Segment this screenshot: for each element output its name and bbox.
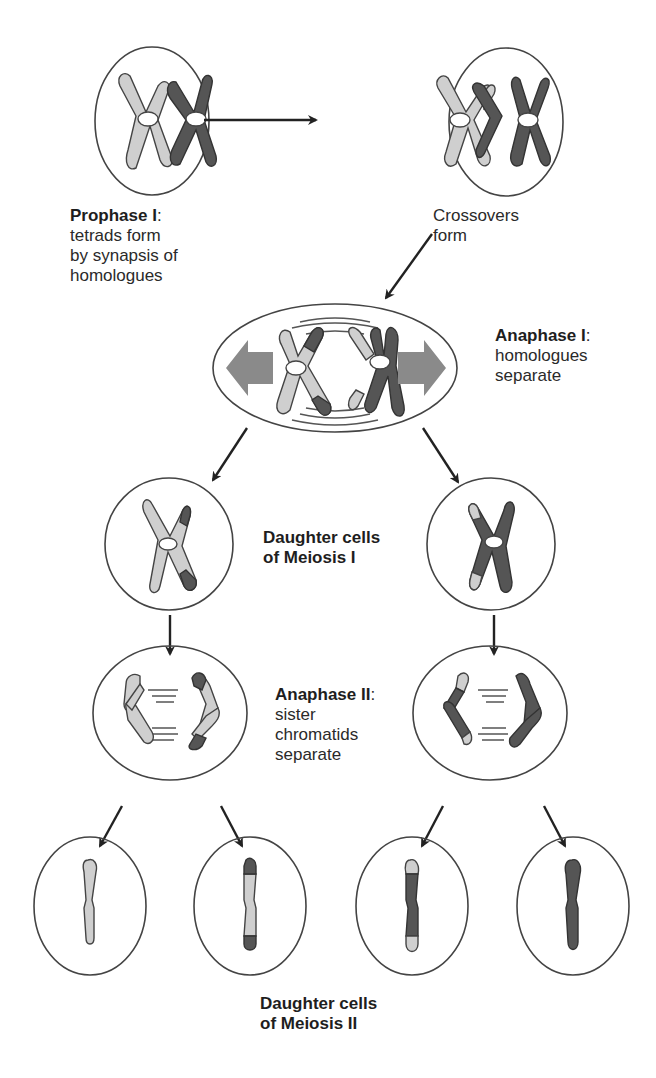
meiosis1-daughter-left (105, 478, 233, 610)
meiosis2-daughter-3 (356, 837, 468, 975)
anaphase2-line1: sister (275, 705, 375, 725)
anaphase1-line1: homologues (495, 346, 590, 366)
crossovers-label: Crossovers form (433, 206, 519, 246)
meiosis1-daughter-right (427, 478, 555, 610)
anaphase1-label: Anaphase I: homologues separate (495, 326, 590, 386)
anaphase1-line2: separate (495, 366, 590, 386)
prophase-line2: by synapsis of (70, 246, 178, 266)
anaphase1-title: Anaphase I (495, 326, 586, 345)
meiosis2-daughter-4 (517, 837, 629, 975)
move-right-arrow-icon (398, 340, 446, 396)
daughter2-line1: Daughter cells (260, 994, 377, 1014)
meiosis2-daughter-2 (194, 837, 306, 975)
arrow-down-right-icon (423, 428, 458, 482)
anaphase2-title: Anaphase II (275, 685, 370, 704)
arrow-down-left-icon (422, 806, 443, 846)
anaphase2-left (93, 646, 247, 780)
daughter2-label: Daughter cells of Meiosis II (260, 994, 377, 1034)
crossovers-line2: form (433, 226, 519, 246)
prophase-line1: tetrads form (70, 226, 178, 246)
crossover-cell (437, 48, 563, 196)
arrow-down-left-icon (100, 806, 122, 846)
daughter1-label: Daughter cells of Meiosis I (263, 528, 380, 568)
daughter2-line2: of Meiosis II (260, 1014, 377, 1034)
daughter1-line2: of Meiosis I (263, 548, 380, 568)
anaphase2-line2: chromatids (275, 725, 375, 745)
anaphase1-cell (213, 304, 457, 432)
anaphase2-line3: separate (275, 745, 375, 765)
anaphase2-right (413, 646, 567, 780)
arrow-down-left-icon (213, 428, 247, 480)
move-left-arrow-icon (226, 340, 273, 396)
anaphase2-label: Anaphase II: sister chromatids separate (275, 685, 375, 765)
prophase-title: Prophase I (70, 206, 157, 225)
prophase-cell (95, 47, 216, 195)
daughter1-line1: Daughter cells (263, 528, 380, 548)
prophase-line3: homologues (70, 266, 178, 286)
prophase-label: Prophase I: tetrads form by synapsis of … (70, 206, 178, 286)
meiosis2-daughter-1 (34, 837, 146, 975)
arrow-down-left-icon (386, 234, 432, 298)
crossovers-line1: Crossovers (433, 206, 519, 226)
